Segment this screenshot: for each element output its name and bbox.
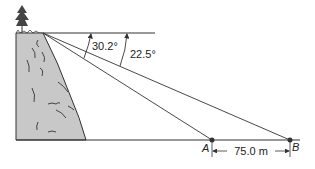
cliff: [16, 33, 86, 140]
cliff-diagram: 30.2° 22.5° A B 75.0 m: [0, 0, 315, 169]
angle-arc-a: [84, 34, 91, 58]
point-a-marker: [210, 138, 215, 143]
tree-icon: [15, 5, 29, 33]
angle-label-a: 30.2°: [92, 40, 118, 52]
distance-label: 75.0 m: [234, 145, 268, 157]
angle-arc-b: [120, 34, 127, 66]
angle-label-b: 22.5°: [130, 48, 156, 60]
point-b-label: B: [292, 141, 299, 153]
point-a-label: A: [201, 142, 209, 154]
